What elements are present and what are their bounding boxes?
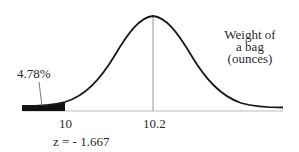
variable-label-line-3: (ounces) bbox=[195, 53, 299, 65]
shaded-area-percent-label: 4.78% bbox=[17, 67, 51, 80]
mean-tick-label: 10.2 bbox=[143, 117, 166, 130]
value-tick-label: 10 bbox=[59, 117, 72, 130]
z-score-label: z = - 1.667 bbox=[53, 135, 109, 148]
percent-leader-line bbox=[39, 82, 42, 106]
normal-curve-diagram: 4.78% Weight of a bag (ounces) 10 10.2 z… bbox=[0, 0, 299, 152]
variable-label: Weight of a bag (ounces) bbox=[195, 29, 299, 65]
